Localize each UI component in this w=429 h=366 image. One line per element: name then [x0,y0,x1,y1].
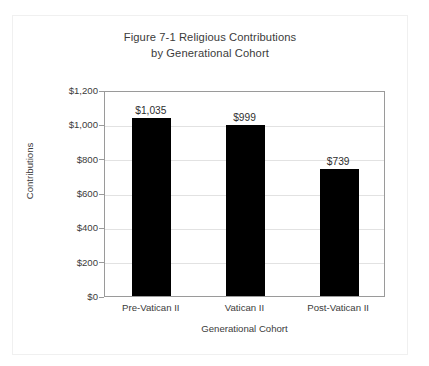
bar-value-label: $739 [291,156,385,167]
bar [132,118,171,296]
bar-value-label: $999 [198,112,292,123]
x-axis-tick-label: Post-Vatican II [291,302,385,313]
bar [320,169,359,296]
x-axis-tick-label: Pre-Vatican II [104,302,198,313]
x-axis-title: Generational Cohort [104,323,385,334]
x-axis-tick-labels: Pre-Vatican IIVatican IIPost-Vatican II [104,302,385,316]
figure-container: Figure 7-1 Religious Contributions by Ge… [12,15,408,355]
x-axis-tick-label: Vatican II [198,302,292,313]
bar [226,125,265,296]
chart-title-line-1: Figure 7-1 Religious Contributions [13,29,407,45]
chart-title: Figure 7-1 Religious Contributions by Ge… [13,29,407,61]
bar-value-label: $1,035 [104,105,198,116]
chart-title-line-2: by Generational Cohort [13,45,407,61]
